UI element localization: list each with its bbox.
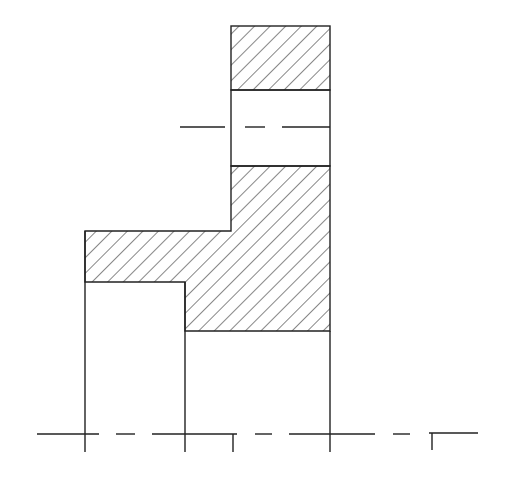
top-hatched-section [231, 26, 330, 90]
lower-hatched-section [85, 166, 330, 331]
cross-section-drawing [0, 0, 505, 479]
lower-centerline [37, 433, 478, 434]
bore-opening [231, 90, 330, 166]
